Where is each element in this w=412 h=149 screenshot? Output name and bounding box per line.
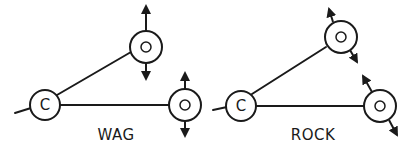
rock-carbon-label: C <box>236 97 246 115</box>
rock-bond-c-o-upper <box>252 47 326 94</box>
wag-panel: C WAG <box>15 6 201 144</box>
wag-mode-label: WAG <box>97 126 134 144</box>
rock-right-o-down-right-arrow-icon <box>389 120 397 135</box>
wag-bond-c-o-upper <box>57 52 131 95</box>
vibration-modes-diagram: C WAG C <box>0 0 412 149</box>
rock-mode-label: ROCK <box>291 126 336 144</box>
rock-right-o-up-left-arrow-icon <box>363 76 372 92</box>
rock-carbon-atom: C <box>226 91 256 121</box>
rock-oxygen-atom-upper <box>325 21 357 53</box>
rock-upper-o-up-left-arrow-icon <box>329 9 333 22</box>
rock-tail-bond <box>213 107 227 110</box>
rock-panel: C ROCK <box>213 9 397 144</box>
wag-oxygen-atom-right <box>169 89 201 121</box>
wag-carbon-atom: C <box>30 90 60 120</box>
wag-tail-bond <box>15 108 31 113</box>
wag-oxygen-atom-upper <box>130 31 162 63</box>
rock-upper-o-down-right-arrow-icon <box>350 50 357 62</box>
wag-carbon-label: C <box>40 96 50 114</box>
rock-oxygen-atom-right <box>364 90 396 122</box>
